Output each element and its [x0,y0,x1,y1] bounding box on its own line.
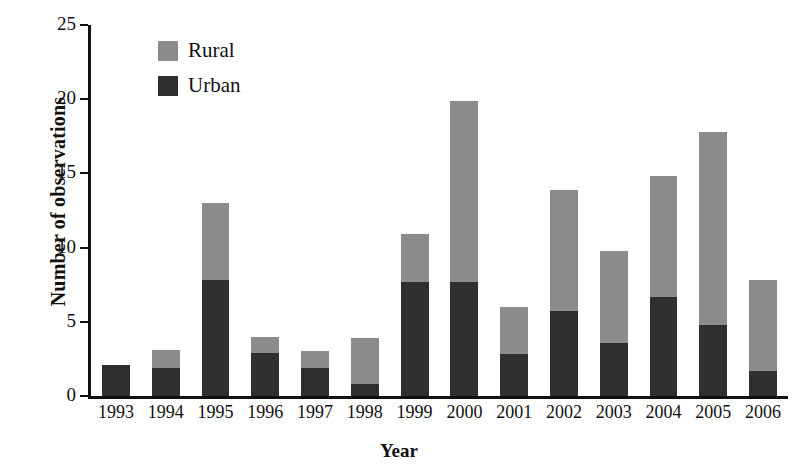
stacked-bar [251,337,279,396]
bar-segment-rural [351,338,379,384]
x-tick-label: 1996 [240,402,290,423]
x-tick-label: 2004 [639,402,689,423]
x-tick-label: 1997 [290,402,340,423]
y-tick-mark [80,395,88,397]
y-tick-label: 15 [16,162,76,181]
bar-segment-rural [600,251,628,343]
bar-segment-urban [152,368,180,396]
stacked-bar [301,351,329,396]
bar-column [351,25,379,396]
bar-column [500,25,528,396]
x-tick-label: 1999 [390,402,440,423]
rural-swatch-icon [158,41,178,61]
bar-segment-urban [699,325,727,396]
y-tick-mark [80,172,88,174]
bar-segment-rural [699,132,727,325]
urban-swatch-icon [158,76,178,96]
bar-column [102,25,130,396]
stacked-bar [401,234,429,396]
legend-label-urban: Urban [188,75,240,96]
stacked-bar [351,338,379,396]
bar-segment-urban [450,282,478,396]
x-axis-title: Year [0,440,798,462]
page-top-edge [0,0,798,4]
y-tick-label: 5 [16,311,76,330]
y-tick-mark [80,24,88,26]
stacked-bar [699,132,727,396]
bar-segment-urban [102,365,130,396]
stacked-bar [650,176,678,396]
bar-column [650,25,678,396]
bar-segment-rural [301,351,329,367]
x-tick-label: 1995 [191,402,241,423]
bar-segment-rural [500,307,528,354]
x-tick-label: 2006 [738,402,788,423]
stacked-bar-chart: Number of observations 0510152025 199319… [0,0,798,473]
y-tick-label: 20 [16,88,76,107]
stacked-bar [102,365,130,396]
stacked-bar [450,101,478,396]
bar-segment-rural [450,101,478,282]
x-tick-label: 2000 [440,402,490,423]
x-tick-label: 2001 [489,402,539,423]
bar-segment-urban [351,384,379,396]
stacked-bar [749,280,777,396]
bar-segment-rural [650,176,678,296]
legend-item-rural: Rural [158,40,240,61]
bar-segment-rural [550,190,578,312]
bar-column [301,25,329,396]
y-tick-label: 10 [16,237,76,256]
bar-segment-rural [749,280,777,371]
y-tick-mark [80,98,88,100]
stacked-bar [500,307,528,396]
stacked-bar [600,251,628,396]
legend-item-urban: Urban [158,75,240,96]
x-tick-label: 1993 [91,402,141,423]
bar-segment-urban [550,311,578,396]
legend-label-rural: Rural [188,40,235,61]
bar-segment-rural [152,350,180,368]
y-tick-mark [80,321,88,323]
x-tick-label: 2003 [589,402,639,423]
x-tick-label: 2002 [539,402,589,423]
bar-segment-urban [401,282,429,396]
x-tick-label: 1998 [340,402,390,423]
bar-segment-urban [301,368,329,396]
bar-column [550,25,578,396]
bar-column [401,25,429,396]
bar-segment-rural [202,203,230,280]
bar-column [450,25,478,396]
stacked-bar [550,190,578,396]
x-tick-label: 1994 [141,402,191,423]
bar-column [600,25,628,396]
stacked-bar [202,203,230,396]
bar-column [749,25,777,396]
y-tick-label: 25 [16,14,76,33]
chart-legend: Rural Urban [158,40,240,110]
x-tick-label: 2005 [688,402,738,423]
bar-segment-rural [401,234,429,281]
bar-segment-urban [202,280,230,396]
bar-segment-urban [600,343,628,396]
bar-segment-urban [650,297,678,396]
x-axis-line [88,396,788,399]
bar-segment-urban [500,354,528,396]
bar-column [699,25,727,396]
bar-segment-rural [251,337,279,353]
y-tick-label: 0 [16,385,76,404]
bar-segment-urban [251,353,279,396]
bar-segment-urban [749,371,777,396]
y-tick-mark [80,247,88,249]
bar-column [251,25,279,396]
stacked-bar [152,350,180,396]
